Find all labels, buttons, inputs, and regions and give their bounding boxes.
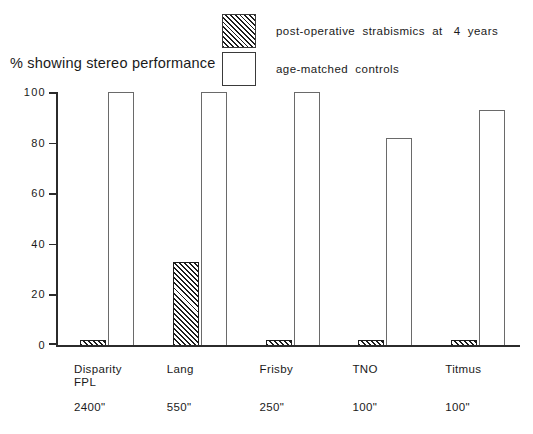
x-category-0: Disparity FPL2400" <box>74 363 122 388</box>
bar-strabismic-0 <box>80 340 106 345</box>
y-tick-label-0: 0 <box>39 339 46 351</box>
y-tick-label-100: 100 <box>24 86 46 98</box>
y-tick-40 <box>49 244 56 246</box>
chart-figure: post-operative strabismics at 4 years ag… <box>0 0 533 434</box>
legend-label-controls: age-matched controls <box>276 63 399 75</box>
x-category-3: TNO100" <box>352 363 377 376</box>
x-category-name-2: Frisby <box>260 363 293 376</box>
y-tick-label-40: 40 <box>31 238 46 250</box>
x-axis-category-labels: Disparity FPL2400"Lang550"Frisby250"TNO1… <box>0 363 533 433</box>
bar-control-4 <box>479 110 505 345</box>
legend-label-strabismics: post-operative strabismics at 4 years <box>276 25 498 37</box>
y-tick-60 <box>49 193 56 195</box>
x-category-2: Frisby250" <box>260 363 293 376</box>
x-category-4: Titmus100" <box>445 363 481 376</box>
y-tick-80 <box>49 143 56 145</box>
x-category-name-0: Disparity FPL <box>74 363 122 388</box>
legend-swatch-white-icon <box>222 52 256 86</box>
y-tick-20 <box>49 294 56 296</box>
bar-control-1 <box>201 92 227 345</box>
x-category-disparity-4: 100" <box>445 401 470 413</box>
x-category-disparity-2: 250" <box>260 401 285 413</box>
y-tick-100 <box>49 92 56 94</box>
bar-strabismic-4 <box>451 340 477 345</box>
y-axis-tick-labels: 100 80 60 40 20 0 <box>0 92 50 345</box>
x-category-disparity-3: 100" <box>352 401 377 413</box>
y-tick-label-20: 20 <box>31 288 46 300</box>
bar-strabismic-1 <box>173 262 199 345</box>
bar-control-2 <box>294 92 320 345</box>
y-tick-0 <box>49 343 56 345</box>
y-axis-line <box>56 92 58 345</box>
bar-control-0 <box>108 92 134 345</box>
x-category-name-4: Titmus <box>445 363 481 376</box>
y-axis-title: % showing stereo performance <box>10 55 215 71</box>
plot-area <box>56 92 520 345</box>
chart-legend: post-operative strabismics at 4 years ag… <box>222 12 522 88</box>
x-category-disparity-1: 550" <box>167 401 192 413</box>
x-category-1: Lang550" <box>167 363 194 376</box>
y-tick-label-80: 80 <box>31 137 46 149</box>
x-category-name-1: Lang <box>167 363 194 376</box>
x-category-name-3: TNO <box>352 363 377 376</box>
legend-swatch-hatched-icon <box>222 14 256 48</box>
x-category-disparity-0: 2400" <box>74 401 105 413</box>
bar-control-3 <box>386 138 412 345</box>
x-axis-line <box>56 345 520 347</box>
bar-strabismic-2 <box>266 340 292 345</box>
bar-strabismic-3 <box>358 340 384 345</box>
legend-item-strabismics: post-operative strabismics at 4 years <box>222 12 522 50</box>
legend-item-controls: age-matched controls <box>222 50 522 88</box>
y-tick-label-60: 60 <box>31 187 46 199</box>
